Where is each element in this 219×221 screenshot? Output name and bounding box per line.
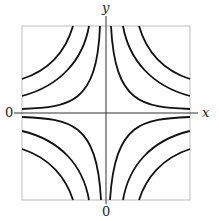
x-axis-label: x	[202, 105, 210, 120]
contour-plot: y x 0 0	[0, 0, 219, 221]
origin-label-bottom: 0	[102, 204, 110, 219]
y-axis-label: y	[101, 0, 110, 15]
origin-label-left: 0	[5, 105, 13, 120]
